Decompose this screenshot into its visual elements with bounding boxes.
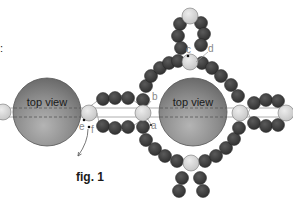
label-a: a bbox=[151, 120, 157, 131]
label-e: e bbox=[79, 121, 85, 132]
beading-diagram: : bbox=[0, 0, 293, 199]
pearl-cd bbox=[182, 54, 198, 70]
pearl-ab bbox=[135, 105, 151, 121]
pearl-right bbox=[232, 105, 248, 121]
label-c: c bbox=[186, 44, 191, 55]
label-d: d bbox=[208, 43, 214, 54]
direction-arrow bbox=[78, 129, 88, 156]
pearl-far-left bbox=[0, 104, 11, 120]
pearl-ef bbox=[81, 105, 97, 121]
seed-beads-between-spheres bbox=[97, 92, 135, 135]
seed-beads-bottom-dangles bbox=[173, 172, 210, 198]
edge-mark: : bbox=[0, 42, 3, 54]
thread-dot-c bbox=[187, 55, 190, 58]
label-f: f bbox=[91, 124, 94, 135]
right-sphere-label: top view bbox=[173, 96, 213, 108]
right-sphere: top view bbox=[159, 78, 227, 146]
left-sphere: top view bbox=[13, 78, 81, 146]
pearl-bottom bbox=[183, 155, 199, 171]
pearl-top bbox=[182, 8, 198, 24]
left-sphere-label: top view bbox=[27, 96, 67, 108]
pearl-far-right bbox=[278, 105, 293, 121]
label-b: b bbox=[152, 91, 158, 102]
thread-dot-f bbox=[88, 126, 91, 129]
figure-caption: fig. 1 bbox=[76, 170, 104, 184]
